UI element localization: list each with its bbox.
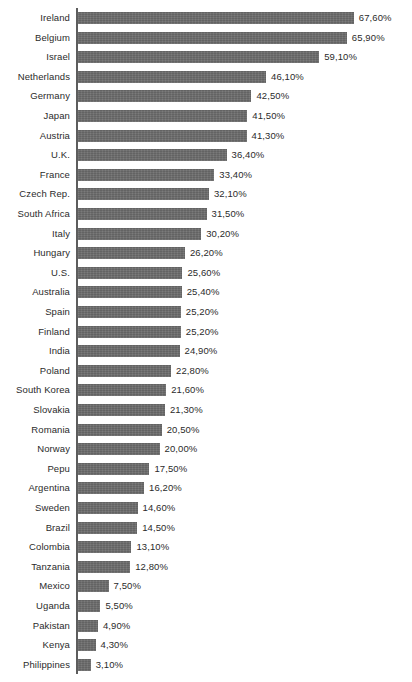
bar	[78, 424, 162, 436]
bar	[78, 580, 109, 592]
bar-value-label: 3,10%	[96, 654, 123, 676]
bar	[78, 659, 91, 671]
bar	[78, 620, 98, 632]
bar	[78, 639, 96, 651]
category-label: Philippines	[0, 654, 70, 676]
bar	[78, 228, 201, 240]
bar	[78, 561, 130, 573]
bar-rows-container: Ireland67,60%Belgium65,90%Israel59,10%Ne…	[0, 0, 412, 682]
bar-row: Philippines3,10%	[0, 654, 412, 676]
bar	[78, 365, 171, 377]
bar	[78, 345, 180, 357]
bar	[78, 443, 160, 455]
bar	[78, 522, 137, 534]
bar-track: 3,10%	[78, 654, 412, 676]
bar	[78, 541, 131, 553]
bar	[78, 326, 181, 338]
bar	[78, 267, 182, 279]
bar	[78, 71, 266, 83]
bar	[78, 384, 166, 396]
bar	[78, 208, 207, 220]
bar	[78, 482, 144, 494]
bar	[78, 32, 347, 44]
bar	[78, 51, 319, 63]
bar	[78, 110, 247, 122]
bar	[78, 600, 100, 612]
bar	[78, 90, 251, 102]
bar	[78, 188, 209, 200]
bar	[78, 404, 165, 416]
bar	[78, 169, 214, 181]
bar	[78, 12, 354, 24]
bar	[78, 502, 138, 514]
bar	[78, 149, 227, 161]
bar	[78, 130, 247, 142]
bar	[78, 286, 182, 298]
bar	[78, 247, 185, 259]
bar-chart: Ireland67,60%Belgium65,90%Israel59,10%Ne…	[0, 0, 412, 682]
bar	[78, 463, 149, 475]
bar	[78, 306, 181, 318]
